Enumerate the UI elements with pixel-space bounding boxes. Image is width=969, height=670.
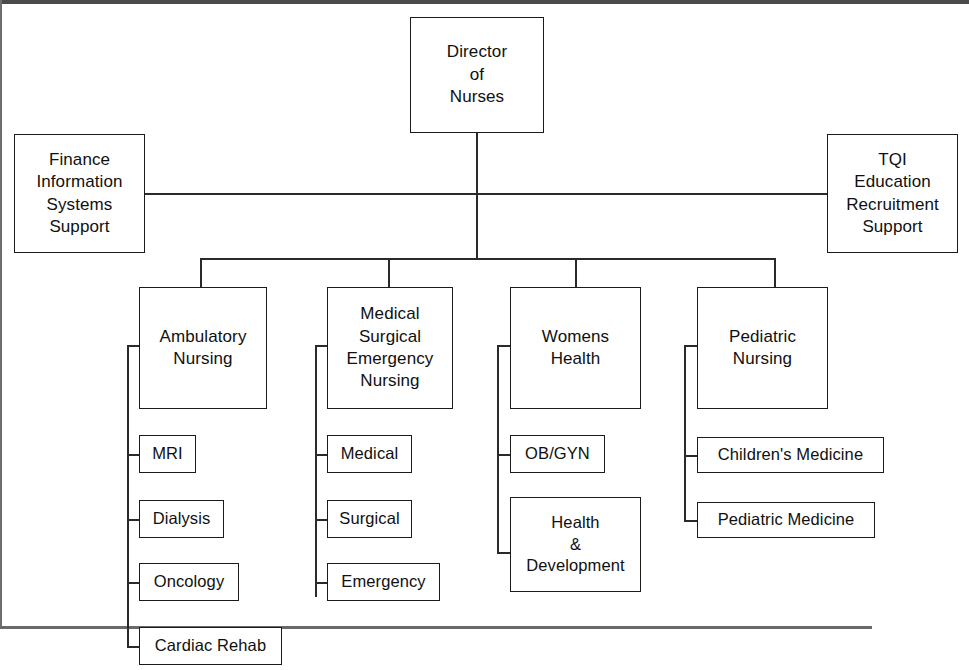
connector-drop-womens-health: [575, 258, 577, 287]
connector-pediatric-spine: [684, 345, 686, 521]
connector-staff-bar: [145, 193, 827, 195]
connector-womens-spine: [497, 345, 499, 553]
node-medical-surgical-emergency-nursing[interactable]: Medical Surgical Emergency Nursing: [327, 287, 453, 409]
node-label: Director of Nurses: [447, 41, 507, 108]
node-womens-health[interactable]: Womens Health: [510, 287, 641, 409]
node-label: Medical Surgical Emergency Nursing: [347, 303, 434, 393]
node-label: MRI: [152, 443, 183, 465]
node-ob-gyn[interactable]: OB/GYN: [510, 435, 605, 473]
org-chart-canvas: Director of Nurses Finance Information S…: [0, 0, 969, 670]
node-label: Surgical: [339, 508, 399, 530]
node-health-and-development[interactable]: Health & Development: [510, 497, 641, 592]
node-emergency[interactable]: Emergency: [327, 563, 440, 601]
node-label: Womens Health: [542, 326, 609, 371]
node-label: Medical: [341, 443, 399, 465]
connector-root-trunk: [476, 133, 478, 259]
node-label: Children's Medicine: [718, 444, 863, 466]
node-label: Pediatric Medicine: [718, 509, 855, 531]
connector-womens-spine-stub: [497, 345, 511, 347]
connector-ambulatory-spine: [127, 345, 129, 646]
node-medical[interactable]: Medical: [327, 435, 412, 473]
node-cardiac-rehab[interactable]: Cardiac Rehab: [139, 627, 282, 665]
node-director-of-nurses[interactable]: Director of Nurses: [410, 17, 544, 133]
connector-womens-to-ob-gyn: [497, 454, 511, 456]
connector-pediatric-spine-stub: [684, 345, 698, 347]
node-ambulatory-nursing[interactable]: Ambulatory Nursing: [139, 287, 267, 409]
connector-department-bus: [200, 258, 775, 260]
node-dialysis[interactable]: Dialysis: [139, 500, 224, 538]
node-label: Health & Development: [526, 512, 624, 577]
node-label: Oncology: [154, 571, 225, 593]
node-label: Emergency: [341, 571, 425, 593]
connector-drop-ambulatory: [200, 258, 202, 287]
connector-pediatric-to-pediatric-medicine: [684, 520, 698, 522]
page-scan-edge-left: [0, 0, 2, 628]
node-label: Cardiac Rehab: [155, 635, 266, 657]
node-oncology[interactable]: Oncology: [139, 563, 239, 601]
connector-pediatric-to-childrens-medicine: [684, 455, 698, 457]
node-label: Pediatric Nursing: [729, 326, 796, 371]
node-pediatric-nursing[interactable]: Pediatric Nursing: [697, 287, 828, 409]
node-tqi-education-recruitment-support[interactable]: TQI Education Recruitment Support: [827, 134, 958, 253]
node-label: Dialysis: [153, 508, 211, 530]
node-childrens-medicine[interactable]: Children's Medicine: [697, 437, 884, 473]
page-scan-edge-bottom: [0, 626, 872, 629]
node-label: OB/GYN: [525, 443, 590, 465]
connector-medsurg-spine: [315, 345, 317, 597]
connector-drop-medical-surgical: [388, 258, 390, 287]
node-finance-information-systems-support[interactable]: Finance Information Systems Support: [14, 134, 145, 253]
node-mri[interactable]: MRI: [139, 435, 196, 473]
node-surgical[interactable]: Surgical: [327, 500, 412, 538]
connector-womens-to-health-development: [497, 552, 511, 554]
connector-drop-pediatric: [774, 258, 776, 287]
node-label: TQI Education Recruitment Support: [846, 149, 939, 239]
node-pediatric-medicine[interactable]: Pediatric Medicine: [697, 502, 875, 538]
node-label: Ambulatory Nursing: [160, 326, 247, 371]
page-scan-edge-top: [0, 0, 969, 4]
node-label: Finance Information Systems Support: [36, 149, 122, 239]
